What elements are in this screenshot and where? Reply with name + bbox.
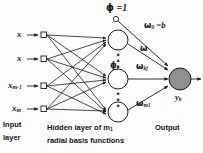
hidden-layer-caption-line1: Hidden layer of m1 <box>47 124 113 133</box>
weight-label-generic: ω <box>140 44 147 54</box>
output-node <box>169 68 191 90</box>
input-layer-caption-line2: layer <box>3 134 21 142</box>
input-node-4 <box>41 106 47 112</box>
input-nodes-group <box>41 32 47 112</box>
hidden-ellipsis-top: ••• <box>114 53 122 71</box>
hidden-node-j <box>108 69 128 89</box>
bias-label: ϕ =1 <box>106 3 127 13</box>
input-label-2: x <box>17 54 22 64</box>
input-node-3 <box>41 83 47 89</box>
weight-label-kj: ωkj <box>136 62 148 72</box>
input-label-4: xm <box>12 104 21 114</box>
rbf-network-diagram: x x xm-1 xm ϕ =1 ϕj ••• ••• ω0 =b ω ωkj … <box>0 0 203 153</box>
hidden-node-1 <box>108 30 128 50</box>
weight-label-m1: ωm1 <box>136 99 151 109</box>
input-node-2 <box>41 56 47 62</box>
input-label-3: xm-1 <box>8 81 22 91</box>
hidden-ellipsis-bottom: ••• <box>114 92 122 110</box>
input-label-1: x <box>17 30 22 40</box>
output-label: yk <box>175 93 182 103</box>
weight-label-bias: ω0 =b <box>144 21 165 31</box>
output-caption: Output <box>155 124 180 132</box>
input-to-hidden-edges <box>47 35 106 114</box>
hidden-layer-caption-line2: radial basis functions <box>47 137 124 145</box>
input-arrows-group <box>27 35 38 109</box>
input-layer-caption-line1: Input <box>3 121 21 129</box>
input-node-1 <box>41 32 47 38</box>
bias-node <box>113 16 118 21</box>
